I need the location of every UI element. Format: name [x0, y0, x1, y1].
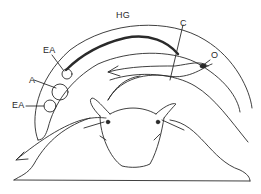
- left-foot-arrow: [16, 152, 28, 160]
- internal-loop: [108, 63, 208, 72]
- label-c: C: [180, 19, 187, 28]
- left-eye: [106, 120, 110, 124]
- left-tentacle: [90, 98, 110, 116]
- label-hg: HG: [116, 11, 130, 20]
- right-tentacle: [156, 104, 176, 118]
- internal-loop-arrow: [108, 66, 120, 76]
- label-ea-top: EA: [43, 46, 56, 55]
- anatomy-diagram: [0, 0, 261, 194]
- ea-bottom-circle: [44, 100, 56, 112]
- head-top: [110, 108, 156, 114]
- label-ea-bottom: EA: [12, 101, 25, 110]
- label-a: A: [29, 76, 35, 85]
- shell-curve-upper: [108, 76, 140, 100]
- right-eye: [156, 120, 160, 124]
- right-whisker: [162, 120, 184, 130]
- ground-line: [14, 180, 250, 181]
- left-foot-curve: [16, 118, 106, 160]
- osphradium: [200, 64, 206, 68]
- left-foot-base: [14, 118, 90, 180]
- label-o: O: [211, 51, 218, 60]
- mantle-outer-arc: [35, 25, 252, 140]
- c-pointer-line: [170, 25, 183, 80]
- head-outline: [100, 116, 164, 167]
